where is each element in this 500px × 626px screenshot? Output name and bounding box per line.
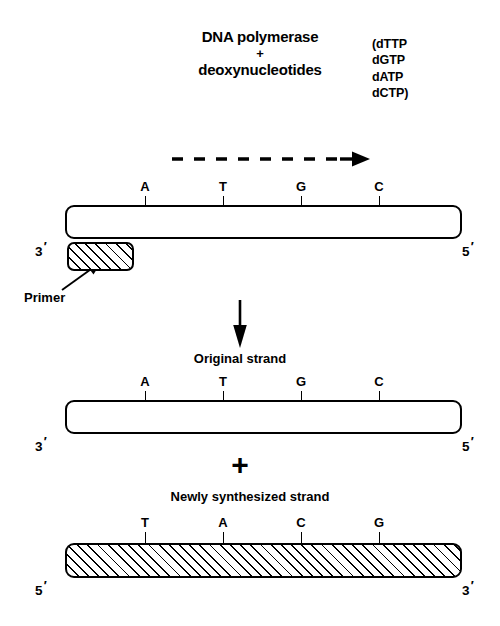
- reaction-conditions: DNA polymerase + deoxynucleotides: [150, 28, 370, 78]
- new-base-4: G: [369, 516, 389, 529]
- new-base-2: A: [213, 516, 233, 529]
- new-strand-bar: [65, 543, 462, 578]
- reaction-down-arrow: [233, 300, 247, 348]
- original-strand-bar: [65, 400, 462, 434]
- dntp-item-dgtp: dGTP: [372, 52, 408, 68]
- template-base-1: A: [135, 180, 155, 193]
- original-left-end: 3′: [35, 440, 46, 454]
- original-base-4: C: [369, 375, 389, 388]
- enzyme-label: DNA polymerase: [150, 28, 370, 46]
- substrate-label: deoxynucleotides: [150, 61, 370, 79]
- primer-block: [67, 242, 134, 271]
- original-base-2: T: [213, 375, 233, 388]
- primer-label: Primer: [24, 291, 65, 304]
- template-strand-bar: [65, 205, 462, 239]
- arrow-layer: [0, 0, 500, 626]
- product-combine-plus: +: [220, 450, 260, 480]
- new-left-end: 5′: [35, 584, 46, 598]
- original-right-end: 5′: [462, 440, 473, 454]
- template-right-end: 5′: [462, 245, 473, 259]
- new-right-end: 3′: [462, 584, 473, 598]
- original-strand-caption: Original strand: [180, 352, 300, 365]
- reaction-plus-sign: +: [150, 47, 370, 60]
- original-base-1: A: [135, 375, 155, 388]
- synthesis-direction-arrow: [172, 152, 370, 167]
- dntp-item-dctp: dCTP): [372, 85, 408, 101]
- dntp-list: (dTTP dGTP dATP dCTP): [372, 36, 408, 101]
- original-base-3: G: [291, 375, 311, 388]
- new-strand-caption: Newly synthesized strand: [150, 490, 350, 503]
- dntp-item-dttp: (dTTP: [372, 36, 408, 52]
- new-base-1: T: [135, 516, 155, 529]
- template-base-4: C: [369, 180, 389, 193]
- template-base-3: G: [291, 180, 311, 193]
- template-left-end: 3′: [35, 245, 46, 259]
- dntp-item-datp: dATP: [372, 69, 408, 85]
- new-base-3: C: [291, 516, 311, 529]
- figure-canvas: DNA polymerase + deoxynucleotides (dTTP …: [0, 0, 500, 626]
- template-base-2: T: [213, 180, 233, 193]
